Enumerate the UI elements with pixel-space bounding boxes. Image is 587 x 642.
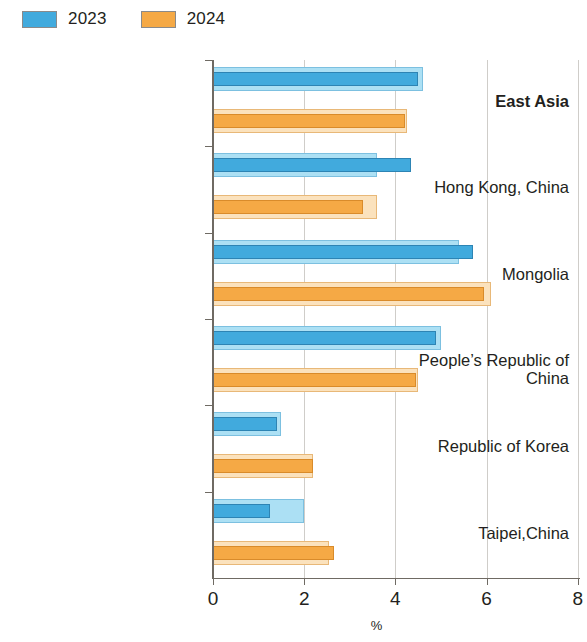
x-tick-label-2: 2 [284, 588, 324, 610]
bar-2023-value-1 [213, 158, 411, 172]
x-tick-label-4: 4 [375, 588, 415, 610]
category-label-5: Taipei,China [376, 524, 581, 542]
category-label-3: People’s Republic of China [376, 351, 581, 387]
bar-2024-value-5 [213, 546, 334, 560]
y-axis-line [212, 60, 214, 579]
category-label-1: Hong Kong, China [376, 178, 581, 196]
x-tick-mark-6 [487, 578, 488, 585]
bar-2023-value-2 [213, 245, 473, 259]
gridline-2 [304, 60, 305, 579]
bar-2023-value-3 [213, 331, 436, 345]
x-tick-mark-8 [578, 578, 579, 585]
x-tick-label-6: 6 [467, 588, 507, 610]
bar-2024-value-2 [213, 287, 484, 301]
category-label-2: Mongolia [376, 265, 581, 283]
gridline-4 [395, 60, 396, 579]
x-tick-mark-4 [395, 578, 396, 585]
gridline-8 [578, 60, 579, 579]
category-label-4: Republic of Korea [376, 437, 581, 455]
bar-2023-value-5 [213, 504, 270, 518]
gridline-6 [487, 60, 488, 579]
bar-2024-value-0 [213, 114, 405, 128]
bar-2023-value-0 [213, 72, 418, 86]
x-axis-title: % [0, 618, 581, 633]
category-label-0: East Asia [376, 92, 581, 110]
bar-2024-value-4 [213, 459, 313, 473]
x-tick-mark-0 [213, 578, 214, 585]
x-tick-label-0: 0 [193, 588, 233, 610]
bar-2023-value-4 [213, 417, 277, 431]
x-tick-label-8: 8 [558, 588, 587, 610]
x-tick-mark-2 [304, 578, 305, 585]
bar-2024-value-1 [213, 200, 363, 214]
